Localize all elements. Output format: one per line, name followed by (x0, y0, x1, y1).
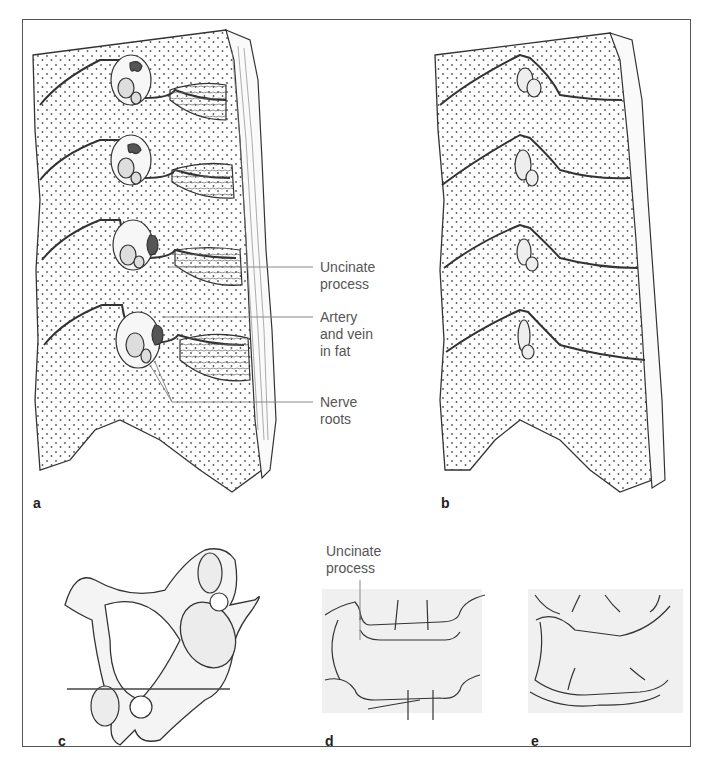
label-artery-and-vein-in-fat: Artery and vein in fat (320, 309, 373, 360)
panel-letter-b: b (441, 495, 450, 511)
label-nerve-roots: Nerve roots (320, 394, 357, 428)
label-line: and vein (320, 326, 373, 343)
label-line: in fat (320, 343, 373, 360)
label-uncinate-process-d: Uncinate process (326, 543, 381, 577)
label-line: Artery (320, 309, 373, 326)
label-uncinate-process-a: Uncinate process (320, 259, 375, 293)
label-line: roots (320, 411, 357, 428)
label-line: process (326, 560, 381, 577)
panel-letter-a: a (33, 495, 41, 511)
label-line: Uncinate (326, 543, 381, 560)
panel-letter-d: d (325, 733, 334, 749)
label-line: Nerve (320, 394, 357, 411)
label-line: Uncinate (320, 259, 375, 276)
panel-e-illustration (0, 0, 707, 767)
panel-letter-e: e (531, 733, 539, 749)
panel-letter-c: c (58, 733, 66, 749)
label-line: process (320, 276, 375, 293)
